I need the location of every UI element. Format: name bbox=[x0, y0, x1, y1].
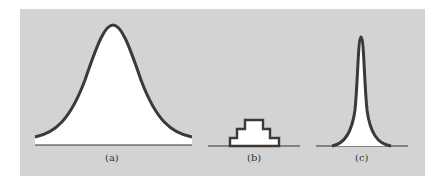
figure-canvas bbox=[0, 0, 441, 185]
panel-a-label: (a) bbox=[105, 152, 119, 163]
panel-c-narrow-peak bbox=[316, 37, 408, 146]
panel-a-bell-curve bbox=[35, 25, 192, 145]
panel-b-step-shape bbox=[208, 120, 300, 146]
panel-c-label: (c) bbox=[355, 152, 368, 163]
panel-b-label: (b) bbox=[247, 152, 261, 163]
